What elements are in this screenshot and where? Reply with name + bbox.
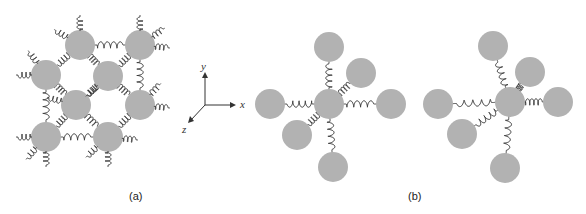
- spring: [152, 28, 165, 39]
- lattice-bead: [31, 122, 61, 152]
- spring: [150, 84, 161, 96]
- spring: [43, 151, 49, 167]
- spring: [306, 112, 319, 126]
- x-arrowhead-icon: [230, 102, 236, 108]
- spring: [122, 136, 138, 143]
- neighbor-bead: [314, 32, 344, 62]
- spring: [16, 134, 32, 140]
- spring: [154, 44, 170, 51]
- y-arrowhead-icon: [202, 72, 208, 78]
- y-axis-label: y: [200, 60, 206, 72]
- spring: [28, 51, 39, 64]
- spring: [86, 146, 98, 158]
- spring: [137, 58, 143, 92]
- spring: [105, 151, 111, 167]
- panel-b-label: (b): [408, 190, 421, 202]
- neighbor-bead: [490, 153, 520, 183]
- neighbor-bead: [376, 89, 406, 119]
- neighbor-bead: [255, 89, 285, 119]
- spring: [26, 147, 37, 160]
- neighbor-bead: [318, 152, 348, 182]
- coordinate-axes: y x z: [181, 60, 245, 135]
- spring: [43, 88, 49, 124]
- spring: [137, 15, 143, 31]
- x-axis-label: x: [239, 98, 245, 110]
- spring: [54, 30, 68, 39]
- z-axis: [191, 105, 205, 120]
- lattice-bead: [125, 30, 155, 60]
- lattice-bead: [93, 61, 123, 91]
- neighbor-bead: [543, 87, 573, 117]
- lattice-bead: [93, 122, 123, 152]
- spring: [56, 53, 71, 67]
- spring: [504, 115, 512, 155]
- lattice-bead: [31, 60, 61, 90]
- spring: [84, 114, 98, 128]
- spring: [326, 60, 332, 91]
- lattice-bead: [61, 90, 91, 120]
- spring: [338, 82, 351, 96]
- spring: [154, 104, 170, 111]
- spring: [117, 113, 131, 127]
- beads: [31, 30, 573, 183]
- spring: [473, 109, 499, 127]
- panel-a-label: (a): [129, 190, 142, 202]
- spring: [93, 42, 127, 48]
- neighbor-bead: [346, 58, 376, 88]
- spring: [117, 53, 130, 67]
- spring: [327, 117, 335, 154]
- z-axis-label: z: [181, 123, 187, 135]
- neighbor-bead: [282, 120, 312, 150]
- neighbor-bead: [423, 89, 453, 119]
- neighbor-bead: [478, 31, 508, 61]
- lattice-bead: [65, 30, 95, 60]
- neighbor-bead: [447, 119, 477, 149]
- spring: [55, 114, 67, 128]
- central-bead: [314, 89, 344, 119]
- spring: [16, 72, 32, 78]
- figure-canvas: y x z (a) (b): [0, 0, 586, 214]
- spring: [77, 15, 83, 31]
- spring: [496, 58, 508, 89]
- spring: [283, 101, 316, 107]
- central-bead: [495, 87, 525, 117]
- neighbor-bead: [515, 57, 545, 87]
- spring: [59, 134, 95, 140]
- spring: [451, 99, 497, 106]
- spring: [342, 101, 378, 107]
- spring: [523, 99, 545, 105]
